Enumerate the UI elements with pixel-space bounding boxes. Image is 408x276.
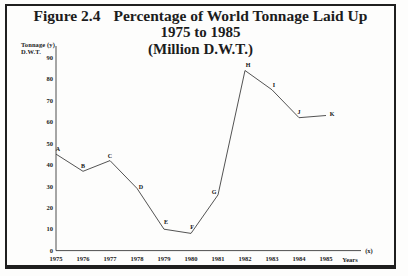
y-tick-label-80: 80	[47, 75, 54, 82]
x-tick-label-1979: 1979	[158, 255, 172, 262]
point-label-H: H	[246, 62, 251, 68]
y-tick-label-20: 20	[47, 204, 54, 211]
y-tick-label-60: 60	[47, 118, 54, 125]
y-tick-label-50: 50	[47, 140, 54, 147]
x-tick-label-1984: 1984	[293, 255, 307, 262]
point-label-G: G	[212, 189, 217, 195]
x-tick-label-1981: 1981	[212, 255, 225, 262]
x-tick-label-1980: 1980	[185, 255, 198, 262]
y-tick-label-40: 40	[47, 161, 54, 168]
point-label-E: E	[164, 219, 168, 225]
x-tick-label-1985: 1985	[320, 255, 334, 262]
point-label-F: F	[190, 224, 194, 230]
figure-scan: Figure 2.4Percentage of World Tonnage La…	[0, 0, 408, 276]
x-axis-suffix: (x)	[365, 247, 373, 255]
point-label-C: C	[108, 153, 112, 159]
chart-canvas: 0102030405060708090197519761977197819791…	[0, 0, 408, 276]
x-tick-label-1982: 1982	[239, 255, 252, 262]
y-tick-label-30: 30	[47, 183, 54, 190]
y-tick-label-70: 70	[47, 97, 54, 104]
point-label-D: D	[139, 184, 144, 190]
x-tick-label-1976: 1976	[77, 255, 91, 262]
y-tick-label-10: 10	[47, 225, 54, 232]
x-tick-label-1975: 1975	[50, 255, 64, 262]
tonnage-data-polyline	[56, 71, 326, 234]
x-tick-label-1983: 1983	[266, 255, 280, 262]
point-label-B: B	[81, 163, 85, 169]
y-tick-label-90: 90	[47, 54, 54, 61]
point-label-A: A	[56, 146, 61, 152]
point-label-J: J	[298, 109, 301, 115]
x-axis-caption: Years	[342, 256, 358, 263]
point-label-K: K	[330, 111, 335, 117]
y-tick-label-0: 0	[50, 247, 53, 254]
x-tick-label-1977: 1977	[104, 255, 118, 262]
point-label-I: I	[273, 82, 276, 88]
x-tick-label-1978: 1978	[131, 255, 145, 262]
